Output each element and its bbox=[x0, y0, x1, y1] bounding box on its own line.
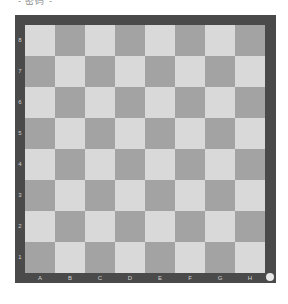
square-a8[interactable] bbox=[25, 25, 55, 56]
square-a6[interactable] bbox=[25, 87, 55, 118]
square-a4[interactable] bbox=[25, 149, 55, 180]
square-c8[interactable] bbox=[85, 25, 115, 56]
square-h6[interactable] bbox=[235, 87, 265, 118]
square-h7[interactable] bbox=[235, 56, 265, 87]
circle-icon bbox=[266, 273, 274, 281]
square-g5[interactable] bbox=[205, 118, 235, 149]
square-e1[interactable] bbox=[145, 242, 175, 273]
square-a1[interactable] bbox=[25, 242, 55, 273]
rank-label: 4 bbox=[15, 161, 25, 168]
rank-label: 7 bbox=[15, 68, 25, 75]
file-label: F bbox=[175, 274, 205, 283]
chess-board: 87654321 ABCDEFGH bbox=[15, 15, 276, 283]
rank-label: 1 bbox=[15, 254, 25, 261]
square-e7[interactable] bbox=[145, 56, 175, 87]
square-f8[interactable] bbox=[175, 25, 205, 56]
square-c7[interactable] bbox=[85, 56, 115, 87]
square-e4[interactable] bbox=[145, 149, 175, 180]
square-d2[interactable] bbox=[115, 211, 145, 242]
square-b5[interactable] bbox=[55, 118, 85, 149]
square-g2[interactable] bbox=[205, 211, 235, 242]
rank-label: 5 bbox=[15, 130, 25, 137]
square-h5[interactable] bbox=[235, 118, 265, 149]
square-d3[interactable] bbox=[115, 180, 145, 211]
square-d8[interactable] bbox=[115, 25, 145, 56]
square-f7[interactable] bbox=[175, 56, 205, 87]
square-e8[interactable] bbox=[145, 25, 175, 56]
square-b2[interactable] bbox=[55, 211, 85, 242]
square-h2[interactable] bbox=[235, 211, 265, 242]
square-f4[interactable] bbox=[175, 149, 205, 180]
square-a5[interactable] bbox=[25, 118, 55, 149]
file-label: C bbox=[85, 274, 115, 283]
square-b1[interactable] bbox=[55, 242, 85, 273]
rank-label: 3 bbox=[15, 192, 25, 199]
header-label: - 密码 - bbox=[18, 0, 53, 7]
file-label: E bbox=[145, 274, 175, 283]
square-g8[interactable] bbox=[205, 25, 235, 56]
square-d7[interactable] bbox=[115, 56, 145, 87]
square-b6[interactable] bbox=[55, 87, 85, 118]
square-a3[interactable] bbox=[25, 180, 55, 211]
square-f3[interactable] bbox=[175, 180, 205, 211]
square-f5[interactable] bbox=[175, 118, 205, 149]
square-e5[interactable] bbox=[145, 118, 175, 149]
square-d5[interactable] bbox=[115, 118, 145, 149]
square-e3[interactable] bbox=[145, 180, 175, 211]
square-g3[interactable] bbox=[205, 180, 235, 211]
square-h3[interactable] bbox=[235, 180, 265, 211]
file-label: G bbox=[205, 274, 235, 283]
square-b7[interactable] bbox=[55, 56, 85, 87]
rank-label: 2 bbox=[15, 223, 25, 230]
square-h8[interactable] bbox=[235, 25, 265, 56]
file-label: B bbox=[55, 274, 85, 283]
square-b3[interactable] bbox=[55, 180, 85, 211]
square-f1[interactable] bbox=[175, 242, 205, 273]
rank-label: 8 bbox=[15, 37, 25, 44]
square-b4[interactable] bbox=[55, 149, 85, 180]
square-g1[interactable] bbox=[205, 242, 235, 273]
file-label: D bbox=[115, 274, 145, 283]
square-f6[interactable] bbox=[175, 87, 205, 118]
file-label: A bbox=[25, 274, 55, 283]
square-h1[interactable] bbox=[235, 242, 265, 273]
square-c3[interactable] bbox=[85, 180, 115, 211]
square-c1[interactable] bbox=[85, 242, 115, 273]
square-d4[interactable] bbox=[115, 149, 145, 180]
square-g6[interactable] bbox=[205, 87, 235, 118]
square-e2[interactable] bbox=[145, 211, 175, 242]
square-b8[interactable] bbox=[55, 25, 85, 56]
square-f2[interactable] bbox=[175, 211, 205, 242]
square-c4[interactable] bbox=[85, 149, 115, 180]
square-a7[interactable] bbox=[25, 56, 55, 87]
rank-label: 6 bbox=[15, 99, 25, 106]
board-grid bbox=[25, 25, 265, 273]
square-c2[interactable] bbox=[85, 211, 115, 242]
square-g4[interactable] bbox=[205, 149, 235, 180]
square-h4[interactable] bbox=[235, 149, 265, 180]
square-e6[interactable] bbox=[145, 87, 175, 118]
square-c6[interactable] bbox=[85, 87, 115, 118]
square-a2[interactable] bbox=[25, 211, 55, 242]
square-d1[interactable] bbox=[115, 242, 145, 273]
square-d6[interactable] bbox=[115, 87, 145, 118]
square-g7[interactable] bbox=[205, 56, 235, 87]
file-label: H bbox=[235, 274, 265, 283]
square-c5[interactable] bbox=[85, 118, 115, 149]
